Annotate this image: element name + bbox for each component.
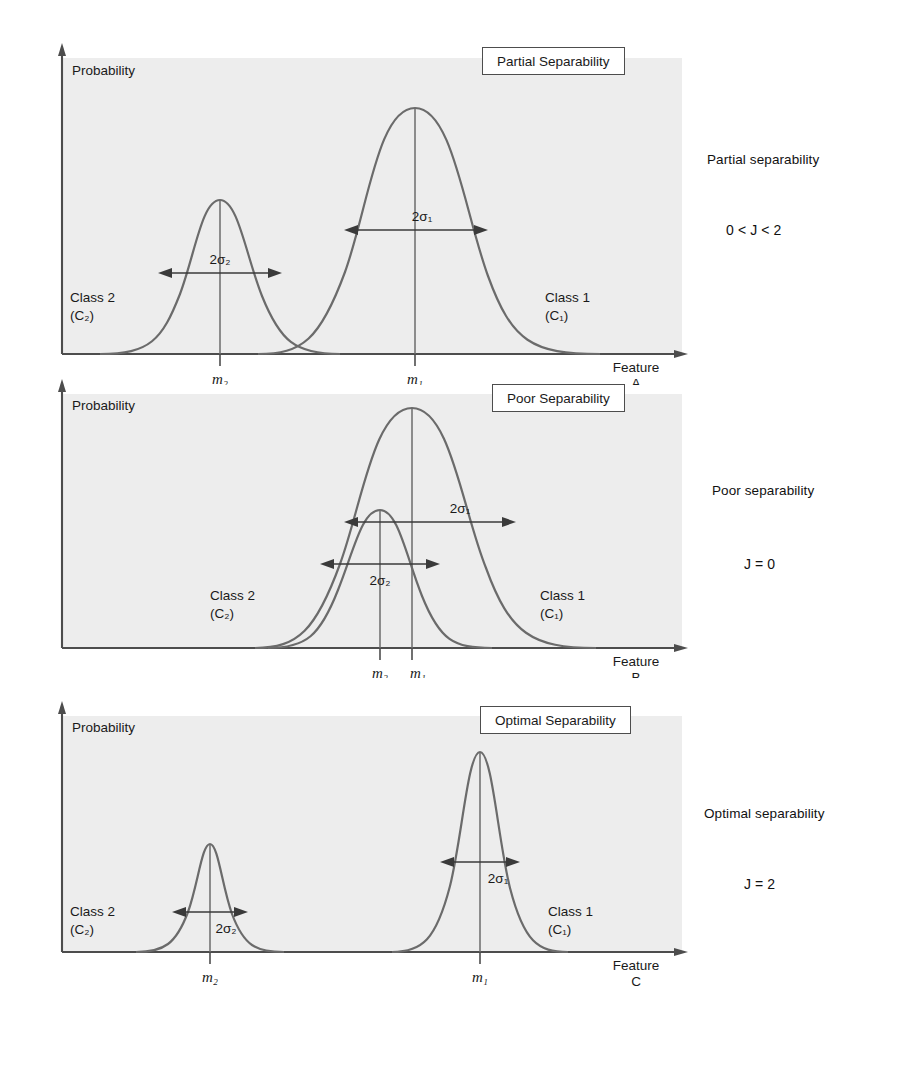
class2-label-line2: (C₂) — [70, 922, 94, 937]
y-axis-label: Probability — [72, 63, 135, 78]
x-axis-label: Feature — [613, 654, 660, 669]
sigma1-label: 2σ₁ — [488, 871, 509, 886]
figure-class-separability: parts of the image, the average of these… — [0, 0, 897, 1066]
panel-b-plot: 2σ₁ 2σ₂ Probability Feature B Class 2 (C… — [40, 378, 700, 678]
panel-b: 2σ₁ 2σ₂ Probability Feature B Class 2 (C… — [40, 378, 700, 682]
class1-label-line1: Class 1 — [548, 904, 593, 919]
class2-label-line1: Class 2 — [70, 290, 115, 305]
y-axis-arrowhead — [58, 379, 66, 392]
mean1-tick-label: m₁ — [410, 665, 426, 678]
class2-label-line2: (C₂) — [210, 606, 234, 621]
side-note-poor: Poor separability — [712, 483, 814, 498]
class2-label-line2: (C₂) — [70, 308, 94, 323]
panel-c-title: Optimal Separability — [495, 713, 616, 728]
class1-label-line2: (C₁) — [540, 606, 563, 621]
x-axis-letter: B — [631, 670, 640, 678]
panel-b-title-box: Poor Separability — [492, 384, 625, 412]
plot-background — [62, 58, 682, 354]
y-axis-label: Probability — [72, 398, 135, 413]
panel-c-title-box: Optimal Separability — [480, 706, 631, 734]
panel-a: 2σ₂ 2σ₁ Probability Feature A Class 2 (C… — [40, 40, 700, 389]
sigma2-label: 2σ₂ — [209, 252, 230, 267]
sigma1-label: 2σ₁ — [412, 209, 433, 224]
panel-c: 2σ₂ 2σ₁ Probability Feature C Class 2 (C… — [40, 700, 700, 1024]
x-axis-label: Feature — [613, 958, 660, 973]
mean2-tick-label: m₂ — [372, 665, 388, 678]
class1-label-line1: Class 1 — [545, 290, 590, 305]
x-axis-label: Feature — [613, 360, 660, 375]
mean2-tick-label: m₂ — [202, 969, 218, 985]
panel-b-title: Poor Separability — [507, 391, 610, 406]
y-axis-arrowhead — [58, 701, 66, 714]
panel-a-title-box: Partial Separability — [482, 47, 625, 75]
panel-a-title: Partial Separability — [497, 54, 610, 69]
plot-background — [62, 394, 682, 648]
mean1-tick-label: m₁ — [472, 969, 488, 985]
y-axis-arrowhead — [58, 43, 66, 56]
sigma2-label: 2σ₂ — [369, 573, 390, 588]
x-axis-letter: C — [631, 974, 641, 989]
side-note-partial: Partial separability — [707, 152, 819, 167]
side-note-optimal: Optimal separability — [704, 806, 825, 821]
side-value-optimal: J = 2 — [744, 876, 775, 892]
panel-c-plot: 2σ₂ 2σ₁ Probability Feature C Class 2 (C… — [40, 700, 700, 1020]
panel-a-plot: 2σ₂ 2σ₁ Probability Feature A Class 2 (C… — [40, 40, 700, 385]
class2-label-line1: Class 2 — [210, 588, 255, 603]
class1-label-line1: Class 1 — [540, 588, 585, 603]
class2-label-line1: Class 2 — [70, 904, 115, 919]
class1-label-line2: (C₁) — [548, 922, 571, 937]
sigma2-label: 2σ₂ — [215, 921, 236, 936]
y-axis-label: Probability — [72, 720, 135, 735]
side-value-poor: J = 0 — [744, 556, 775, 572]
sigma1-label: 2σ₁ — [450, 501, 471, 516]
class1-label-line2: (C₁) — [545, 308, 568, 323]
side-value-partial: 0 < J < 2 — [726, 222, 781, 238]
